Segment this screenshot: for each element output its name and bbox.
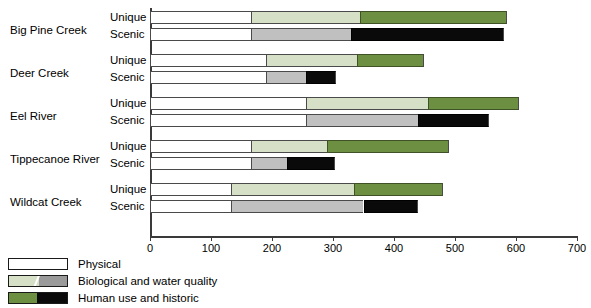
human-use-swatch bbox=[8, 292, 68, 304]
x-axis-tick bbox=[394, 236, 395, 241]
x-axis-tick-label: 300 bbox=[313, 242, 353, 254]
bar-segment bbox=[150, 97, 306, 110]
chart-bar-row: Scenic bbox=[0, 200, 583, 214]
x-axis-tick-label: 400 bbox=[374, 242, 414, 254]
bar-segment bbox=[306, 97, 428, 110]
bar-segment bbox=[150, 54, 266, 67]
bar-row-label: Unique bbox=[110, 183, 146, 196]
x-axis-tick bbox=[272, 236, 273, 241]
x-axis-tick bbox=[516, 236, 517, 241]
bar-segment bbox=[327, 140, 449, 153]
legend-label-biological: Biological and water quality bbox=[78, 274, 217, 288]
physical-swatch bbox=[8, 258, 68, 270]
bar-row-label: Scenic bbox=[110, 200, 145, 213]
bar-segment bbox=[428, 97, 520, 110]
bar-row-label: Unique bbox=[110, 54, 146, 67]
x-axis-tick-label: 600 bbox=[496, 242, 536, 254]
bar-segment bbox=[287, 157, 335, 170]
x-axis-line bbox=[150, 236, 578, 238]
bar-row-label: Scenic bbox=[110, 28, 145, 41]
human-use-swatch-scenic-half bbox=[37, 293, 67, 303]
x-axis-tick-label: 100 bbox=[191, 242, 231, 254]
chart-bar-row: Scenic bbox=[0, 114, 583, 128]
chart-bar-row: Unique bbox=[0, 54, 583, 68]
bar-segment bbox=[251, 11, 361, 24]
x-axis-tick bbox=[211, 236, 212, 241]
bar-segment bbox=[306, 71, 337, 84]
bar-segment bbox=[306, 114, 419, 127]
chart-bar-row: Scenic bbox=[0, 157, 583, 171]
bar-row-label: Unique bbox=[110, 97, 146, 110]
bar-segment bbox=[364, 200, 419, 213]
bar-segment bbox=[266, 71, 306, 84]
bar-segment bbox=[231, 183, 354, 196]
biological-swatch bbox=[8, 275, 68, 287]
bar-segment bbox=[360, 11, 506, 24]
bar-row-label: Unique bbox=[110, 11, 146, 24]
x-axis-tick bbox=[150, 236, 151, 241]
bar-segment bbox=[231, 200, 363, 213]
bar-segment bbox=[150, 157, 251, 170]
bar-segment bbox=[150, 71, 266, 84]
bar-segment bbox=[351, 28, 504, 41]
bar-row-label: Scenic bbox=[110, 157, 145, 170]
bar-segment bbox=[251, 140, 327, 153]
x-axis-tick bbox=[333, 236, 334, 241]
bar-segment bbox=[251, 28, 352, 41]
bar-segment bbox=[150, 140, 251, 153]
bar-segment bbox=[150, 114, 306, 127]
bar-row-label: Unique bbox=[110, 140, 146, 153]
chart-bar-row: Scenic bbox=[0, 28, 583, 42]
x-axis-tick-label: 0 bbox=[130, 242, 170, 254]
bar-segment bbox=[150, 28, 251, 41]
bar-segment bbox=[150, 183, 231, 196]
chart-bar-row: Unique bbox=[0, 97, 583, 111]
bar-segment bbox=[251, 157, 288, 170]
chart-bar-row: Unique bbox=[0, 11, 583, 25]
bar-row-label: Scenic bbox=[110, 114, 145, 127]
bar-segment bbox=[354, 183, 442, 196]
x-axis-tick-label: 500 bbox=[435, 242, 475, 254]
x-axis-tick-label: 200 bbox=[252, 242, 292, 254]
chart-bar-row: Unique bbox=[0, 183, 583, 197]
bar-segment bbox=[266, 54, 358, 67]
x-axis-tick bbox=[455, 236, 456, 241]
bar-segment bbox=[418, 114, 488, 127]
legend-label-human-use: Human use and historic bbox=[78, 291, 199, 305]
bar-row-label: Scenic bbox=[110, 71, 145, 84]
legend-label-physical: Physical bbox=[78, 257, 121, 271]
x-axis-tick bbox=[577, 236, 578, 241]
chart-bar-row: Unique bbox=[0, 140, 583, 154]
bar-segment bbox=[150, 11, 251, 24]
bar-segment bbox=[150, 200, 231, 213]
biological-swatch-scenic-half bbox=[39, 276, 67, 286]
bar-segment bbox=[357, 54, 424, 67]
x-axis-tick-label: 700 bbox=[557, 242, 591, 254]
chart-bar-row: Scenic bbox=[0, 71, 583, 85]
